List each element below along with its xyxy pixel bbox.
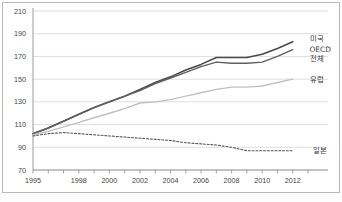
series-label-OECD: OECD [310, 45, 332, 54]
series-labels: 미국OECD전체유럽일본 [310, 34, 332, 155]
y-tick-label: 170 [14, 52, 26, 61]
y-tick-label: 130 [14, 97, 26, 106]
y-tick-label: 110 [15, 120, 26, 129]
x-tick-label: 1995 [25, 176, 41, 185]
y-tick-label: 70 [18, 166, 26, 175]
x-axis-tick-marks [33, 170, 308, 174]
series-label-미국: 미국 [310, 34, 324, 43]
x-tick-label: 2004 [163, 176, 179, 185]
x-tick-label: 2000 [101, 176, 117, 185]
y-tick-label: 90 [18, 143, 26, 152]
y-tick-label: 210 [14, 7, 26, 16]
chart-screenshot: 7090110130150170190210 19951998200020022… [0, 0, 342, 202]
x-tick-label: 1998 [71, 176, 87, 185]
axes [33, 8, 328, 170]
series-line-OECD [33, 50, 293, 134]
x-tick-label: 2010 [254, 176, 270, 185]
series-line-일본 [33, 133, 293, 151]
x-tick-label: 2012 [285, 176, 301, 185]
x-tick-label: 2002 [132, 176, 148, 185]
series-line-유럽 [33, 79, 293, 135]
x-tick-label: 2006 [193, 176, 209, 185]
line-chart: 7090110130150170190210 19951998200020022… [0, 0, 342, 202]
series-line-미국 [33, 42, 293, 134]
series-label-유럽: 유럽 [310, 75, 324, 84]
y-tick-label: 150 [14, 75, 26, 84]
y-axis-tick-labels: 7090110130150170190210 [14, 7, 26, 175]
series-label-일본: 일본 [313, 146, 327, 155]
x-tick-label: 2008 [224, 176, 240, 185]
gridlines [33, 11, 328, 170]
series-label-전체: 전체 [310, 54, 324, 63]
series-lines [33, 42, 293, 151]
x-axis-tick-labels: 199519982000200220042006200820102012 [25, 176, 301, 185]
y-tick-label: 190 [14, 29, 26, 38]
